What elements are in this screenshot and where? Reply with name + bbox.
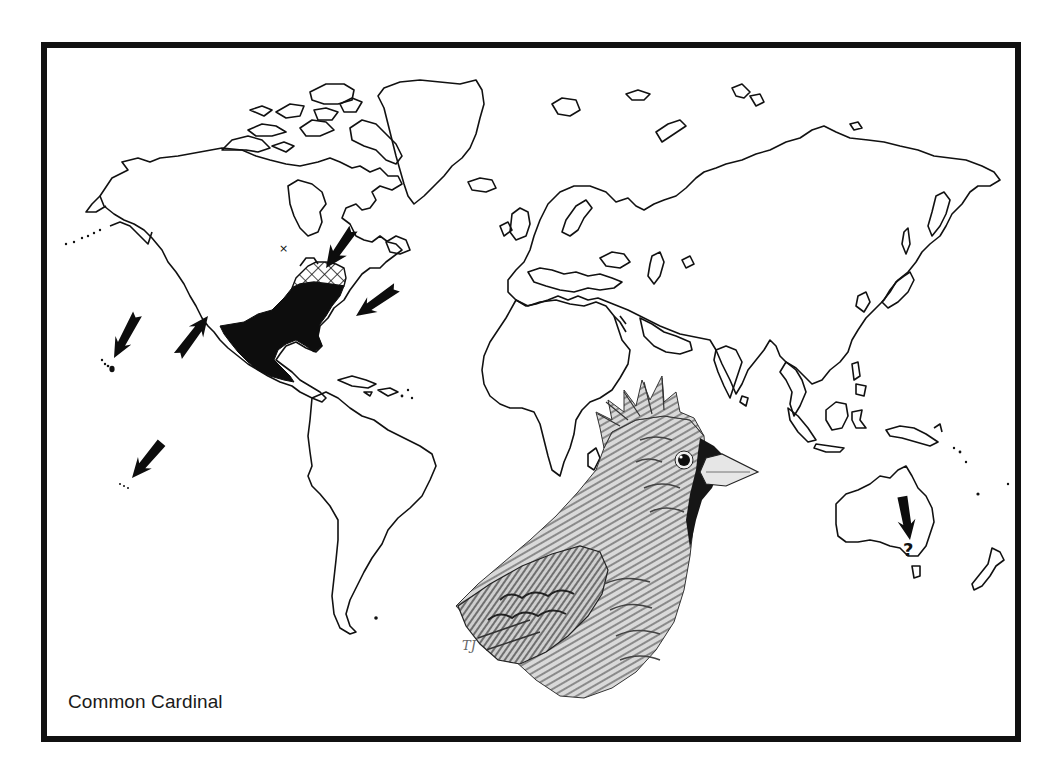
native-range-fill: [220, 282, 344, 382]
southeast-asia-oceania: [780, 362, 1009, 590]
central-pacific-islands: [119, 483, 129, 489]
isolated-record-marker: ×: [279, 242, 288, 255]
arrow-marker-bermuda: [351, 280, 402, 323]
arrow-marker-baja-california: [171, 311, 215, 362]
eurasia: [500, 84, 1000, 406]
cardinal-illustration: [456, 376, 758, 698]
arrow-marker-australia: [893, 495, 918, 541]
arrow-marker-hawaii: [106, 310, 145, 363]
uncertain-population-marker: ?: [903, 539, 913, 560]
arrow-marker-central-pacific: [125, 437, 168, 484]
map-title: Common Cardinal: [68, 691, 223, 713]
hawaii-islands: [101, 359, 115, 372]
north-america: [65, 80, 496, 402]
artist-signature: TJ: [462, 638, 477, 653]
world-map: ×: [0, 0, 1060, 775]
south-america: [308, 392, 436, 634]
